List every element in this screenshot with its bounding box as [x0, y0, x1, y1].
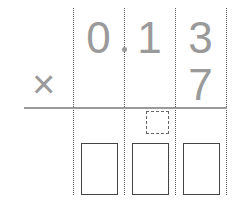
multiplicand-digit-hundredths: 3	[175, 16, 226, 60]
multiplicand-digit-tenths: 1	[124, 16, 175, 60]
column-divider	[226, 8, 227, 195]
sum-line	[24, 107, 227, 109]
multiply-operator: ×	[32, 64, 55, 104]
answer-box-2[interactable]	[132, 143, 169, 195]
multiplicand-digit-ones: 0	[73, 16, 124, 60]
carry-input-box[interactable]	[146, 111, 169, 134]
answer-box-3[interactable]	[183, 143, 220, 195]
multiplier-digit: 7	[175, 63, 226, 107]
answer-box-1[interactable]	[81, 143, 118, 195]
